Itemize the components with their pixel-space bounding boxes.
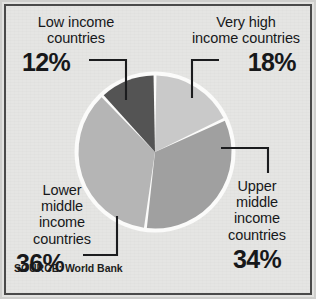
label-very-high-income-line1: Very high [184,14,308,30]
label-very-high-income: Very high income countries 18% [184,14,308,76]
label-lower-middle-income-line1: Lower [8,182,116,198]
label-lower-middle-income-line2: middle [8,198,116,214]
label-upper-middle-income-percent: 34% [206,245,308,273]
label-low-income-percent: 12% [14,48,138,76]
label-lower-middle-income-line3: income [8,214,116,230]
label-upper-middle-income-line2: middle [206,194,308,210]
label-upper-middle-income-line1: Upper [206,178,308,194]
label-upper-middle-income: Upper middle income countries 34% [206,178,308,273]
label-low-income: Low income countries 12% [14,14,138,76]
pie-chart-figure: Low income countries 12% Very high incom… [0,0,316,299]
label-lower-middle-income-line4: countries [8,231,116,247]
leader-line-upper-middle-income [221,148,268,173]
label-upper-middle-income-line4: countries [206,227,308,243]
label-low-income-line2: countries [14,30,138,46]
label-very-high-income-percent: 18% [184,48,308,76]
label-very-high-income-line2: income countries [184,30,308,46]
label-upper-middle-income-line3: income [206,210,308,226]
source-note: SOURCE: World Bank [14,262,123,274]
label-low-income-line1: Low income [14,14,138,30]
